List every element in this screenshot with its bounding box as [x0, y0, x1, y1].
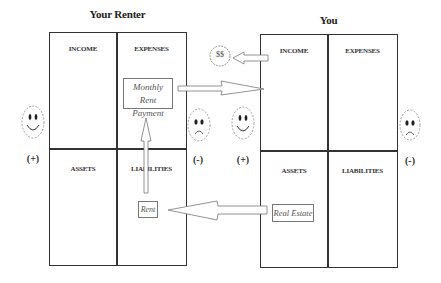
renter-positive-sign: (+)	[23, 153, 43, 164]
up-arrow-icon	[141, 118, 151, 193]
monthly-rent-payment-box: Monthly Rent Payment	[123, 78, 173, 109]
right-arrow-icon	[178, 81, 264, 95]
left-arrow-icon	[233, 52, 268, 64]
happy-face-icon	[22, 106, 44, 138]
rent-liability-box: Rent	[138, 201, 158, 218]
money-badge: $$	[210, 50, 230, 59]
happy-face-icon	[232, 107, 254, 139]
diagram-graphics	[0, 0, 441, 283]
sad-face-icon	[188, 109, 210, 141]
you-negative-sign: (-)	[400, 155, 420, 166]
monthly-rent-payment-line2: Payment	[124, 107, 172, 120]
renter-negative-sign: (-)	[188, 154, 208, 165]
you-positive-sign: (+)	[233, 154, 253, 165]
real-estate-asset-box: Real Estate	[272, 204, 314, 222]
monthly-rent-payment-line1: Monthly Rent	[124, 81, 172, 107]
left-arrow-icon	[168, 201, 267, 220]
sad-face-icon	[400, 110, 420, 140]
